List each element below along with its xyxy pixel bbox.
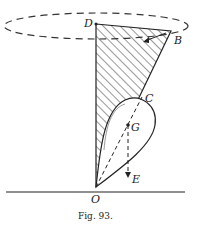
label-g: G [131, 121, 140, 134]
label-o: O [91, 193, 100, 206]
figure-93-diagram: D B C G E O Fig. 93. [0, 0, 200, 226]
label-e: E [131, 173, 140, 186]
label-c: C [145, 92, 154, 105]
point-g [126, 123, 130, 127]
label-b: B [173, 34, 182, 47]
point-d [95, 23, 98, 26]
arrow-e-icon [125, 172, 131, 178]
figure-caption: Fig. 93. [78, 211, 113, 221]
label-d: D [83, 17, 93, 30]
